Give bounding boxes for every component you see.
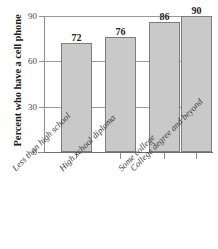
bar-college-degree-and-beyond: 90 bbox=[181, 16, 212, 152]
bar-chart: Percent who have a cell phone 90 60 30 0 bbox=[0, 0, 218, 249]
bar-value-label: 86 bbox=[160, 11, 170, 22]
tick-mark-90 bbox=[39, 16, 44, 17]
bar-value-label: 72 bbox=[72, 32, 82, 43]
x-axis-baseline bbox=[38, 152, 213, 153]
x-tick-4 bbox=[196, 153, 197, 159]
bar-value-label: 90 bbox=[192, 5, 202, 16]
x-tick-3 bbox=[164, 153, 165, 159]
y-tick-label-90: 90 bbox=[28, 11, 37, 21]
y-axis-title: Percent who have a cell phone bbox=[12, 6, 23, 156]
tick-mark-60 bbox=[39, 61, 44, 62]
x-tick-2 bbox=[120, 153, 121, 159]
bar-value-label: 76 bbox=[116, 26, 126, 37]
tick-mark-0 bbox=[39, 152, 44, 153]
tick-mark-30 bbox=[39, 107, 44, 108]
plot-area: 90 60 30 0 72 76 86 90 bbox=[44, 16, 212, 152]
y-tick-label-30: 30 bbox=[28, 102, 37, 112]
y-tick-label-60: 60 bbox=[28, 56, 37, 66]
bar-high-school-diploma: 76 bbox=[105, 37, 136, 152]
